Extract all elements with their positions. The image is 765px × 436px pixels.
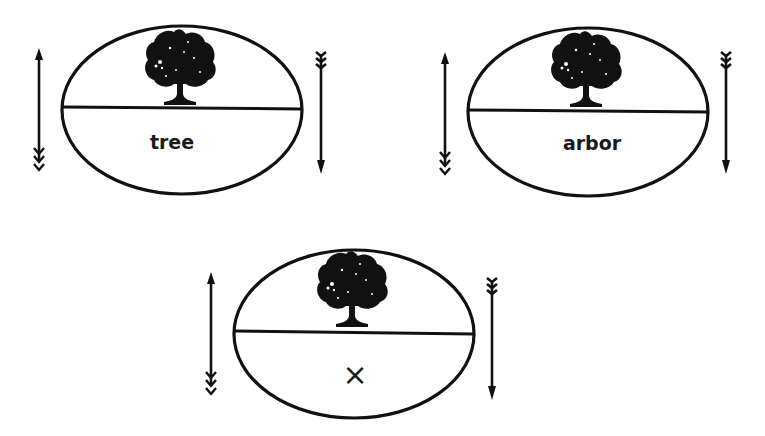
diagram-canvas: tree arbor × <box>0 0 765 436</box>
divider-line <box>235 331 473 334</box>
tree-icon <box>551 31 622 107</box>
down-arrow-icon <box>316 52 326 174</box>
up-arrow-icon <box>206 272 216 394</box>
unknown-x-mark: × <box>342 357 367 392</box>
word-label: tree <box>150 131 194 153</box>
diagram-arbor: arbor <box>440 28 731 196</box>
divider-line <box>63 107 301 109</box>
tree-icon <box>317 251 388 327</box>
word-label: arbor <box>563 132 622 154</box>
down-arrow-icon <box>721 52 731 174</box>
up-arrow-icon <box>34 48 44 170</box>
diagram-tree: tree <box>34 26 326 194</box>
tree-icon <box>145 29 216 105</box>
up-arrow-icon <box>440 52 450 174</box>
diagram-unknown: × <box>206 250 497 418</box>
down-arrow-icon <box>487 278 497 400</box>
divider-line <box>469 110 707 112</box>
